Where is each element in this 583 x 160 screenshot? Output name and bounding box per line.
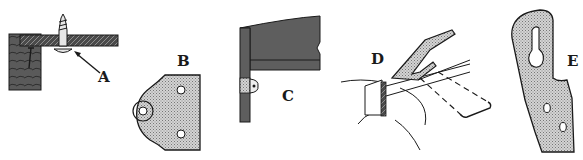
panel-d: D (341, 30, 491, 150)
frame-panel (240, 16, 320, 70)
panel-board (20, 35, 118, 46)
label-c: C (282, 87, 294, 105)
label-d: D (371, 50, 384, 68)
hole-icon (560, 123, 567, 132)
panel-e: E (512, 10, 579, 152)
fastener-diagram: A B C D E (0, 0, 583, 160)
label-a: A (97, 68, 110, 86)
label-b: B (177, 52, 190, 70)
hole-icon (177, 86, 185, 94)
panel-c: C (240, 16, 320, 122)
frame-block (365, 80, 382, 115)
screw-icon (54, 14, 72, 53)
dashed-slot (420, 72, 488, 114)
label-e: E (567, 52, 578, 70)
panel-b: B (133, 52, 200, 150)
hole-icon (177, 130, 185, 138)
spring-clip (392, 30, 455, 80)
corner-bracket (240, 78, 250, 93)
pointer-arrow (77, 54, 100, 73)
panel-a: A (9, 14, 118, 90)
hole-icon (544, 104, 551, 113)
frame-post (240, 28, 250, 122)
